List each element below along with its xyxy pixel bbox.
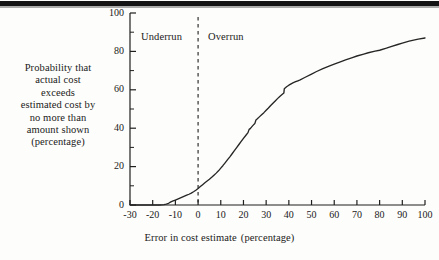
y-axis-ticks (130, 13, 136, 205)
plot-area (0, 0, 439, 260)
axes (130, 13, 425, 205)
y-axis-tick-label: 60 (90, 83, 124, 94)
x-axis-tick-label: 100 (409, 209, 439, 220)
y-axis-tick-label: 0 (90, 199, 124, 210)
y-axis-tick-label: 80 (90, 45, 124, 56)
data-series-group (130, 38, 425, 205)
figure-cost-estimate-error: Probability that actual cost exceeds est… (0, 0, 439, 260)
y-axis-tick-label: 100 (90, 7, 124, 18)
series-line-cumulative-probability (130, 38, 425, 205)
y-axis-tick-label: 20 (90, 160, 124, 171)
y-axis-tick-label: 40 (90, 122, 124, 133)
